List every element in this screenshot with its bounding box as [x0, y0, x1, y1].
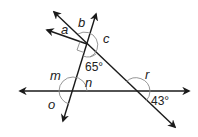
angle-arc-o [59, 91, 69, 104]
label-n: n [85, 75, 92, 90]
label-65-degrees: 65° [85, 60, 103, 74]
diagonal-line [54, 12, 175, 127]
label-o: o [48, 97, 55, 112]
label-c: c [103, 31, 110, 46]
angle-diagram: a b c 65° m n o r 43° [0, 0, 198, 137]
label-a: a [61, 22, 68, 37]
label-r: r [145, 67, 150, 82]
label-m: m [50, 68, 61, 83]
label-43-degrees: 43° [151, 94, 169, 108]
label-b: b [78, 15, 85, 30]
